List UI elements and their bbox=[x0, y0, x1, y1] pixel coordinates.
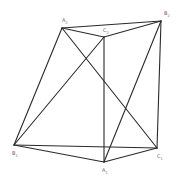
edge-a1-c1 bbox=[104, 148, 157, 162]
vertex-subscript: 1 bbox=[161, 157, 163, 161]
edges-group bbox=[14, 21, 161, 162]
edge-a2-c1 bbox=[62, 28, 157, 148]
edge-b1-a1 bbox=[14, 145, 104, 162]
edge-c2-b1 bbox=[14, 37, 104, 145]
vertex-label-c1: C1 bbox=[157, 153, 163, 161]
edge-b1-c1 bbox=[14, 145, 157, 148]
vertex-label-a1: A1 bbox=[102, 167, 108, 175]
vertex-label-b2: B2 bbox=[164, 10, 170, 18]
vertex-label-a2: A2 bbox=[62, 17, 68, 25]
edge-b2-c1 bbox=[157, 21, 161, 148]
vertex-subscript: 1 bbox=[15, 154, 17, 158]
vertex-subscript: 2 bbox=[107, 31, 109, 35]
prism-diagram: A2B2C2B1A1C1 bbox=[0, 0, 176, 179]
vertex-label-b1: B1 bbox=[12, 150, 18, 158]
vertex-label-c2: C2 bbox=[103, 27, 109, 35]
edge-a2-b1 bbox=[14, 28, 62, 145]
edge-a2-b2 bbox=[62, 21, 161, 28]
vertex-subscript: 2 bbox=[65, 21, 67, 25]
vertex-subscript: 1 bbox=[105, 171, 107, 175]
vertex-subscript: 2 bbox=[167, 14, 169, 18]
